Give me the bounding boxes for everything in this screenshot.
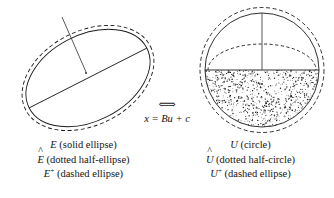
legend-item-U-plus: U+ (dashed ellipse) xyxy=(167,167,334,182)
legend-desc-U: (circle) xyxy=(240,139,270,150)
right-shaded-region xyxy=(199,61,326,134)
right-diagram-group xyxy=(199,8,326,135)
legend-desc-E-plus: (dashed ellipse) xyxy=(57,168,123,179)
hat-accent-icon: ^ xyxy=(207,146,212,156)
right-legend: U (circle) ^U (dotted half-circle) U+ (d… xyxy=(167,138,334,182)
legend-desc-U-hat: (dotted half-circle) xyxy=(216,154,295,165)
left-legend: E (solid ellipse) ^E (dotted half-ellips… xyxy=(0,138,167,182)
legend-item-U-hat: ^U (dotted half-circle) xyxy=(167,153,334,168)
legend-item-E-plus: E+ (dashed ellipse) xyxy=(0,167,167,182)
legend-item-E: E (solid ellipse) xyxy=(0,138,167,153)
legend-desc-E: (solid ellipse) xyxy=(59,139,116,150)
legend-superscript-plus: + xyxy=(50,167,54,175)
transformation-equation: x = Bu + c xyxy=(133,112,201,126)
legend-symbol-U: U xyxy=(230,139,238,150)
transformation-relation: ⟺ x = Bu + c xyxy=(133,98,201,126)
left-chord-line xyxy=(29,48,147,108)
legend-item-U: U (circle) xyxy=(167,138,334,153)
right-center-point xyxy=(261,83,263,85)
iff-arrow-icon: ⟺ xyxy=(133,98,201,111)
left-diagram-group xyxy=(4,4,171,151)
left-axis-segment xyxy=(62,17,86,72)
figure-canvas: ⟺ x = Bu + c E (solid ellipse) ^E (dotte… xyxy=(0,0,334,198)
legend-desc-E-hat: (dotted half-ellipse) xyxy=(46,154,129,165)
legend-symbol-E-hat: ^E xyxy=(37,153,43,168)
left-center-point xyxy=(85,72,87,74)
legend-symbol-U-hat: ^U xyxy=(206,153,214,168)
hat-accent-icon: ^ xyxy=(38,146,43,156)
legend-superscript-plus: + xyxy=(218,167,222,175)
legend-symbol-E: E xyxy=(50,139,56,150)
legend-item-E-hat: ^E (dotted half-ellipse) xyxy=(0,153,167,168)
legend-symbol-U-plus: U xyxy=(210,168,218,179)
legend-desc-U-plus: (dashed ellipse) xyxy=(225,168,291,179)
